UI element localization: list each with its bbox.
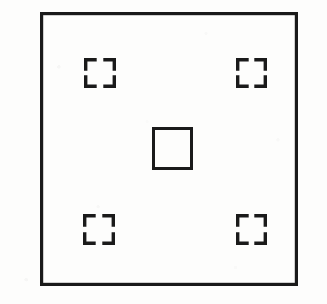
bracket-corner-top-left bbox=[238, 216, 249, 227]
bracket-top-left bbox=[86, 60, 115, 87]
bracket-corner-bottom-left bbox=[238, 75, 249, 86]
bracket-corner-bottom-left bbox=[85, 232, 96, 243]
bracket-corner-top-right bbox=[254, 216, 265, 227]
bracket-corner-top-right bbox=[254, 60, 265, 71]
bracket-corner-top-left bbox=[86, 60, 97, 71]
bracket-corner-bottom-right bbox=[102, 232, 113, 243]
bracket-corner-bottom-left bbox=[238, 232, 249, 243]
bracket-top-right bbox=[238, 60, 266, 87]
bracket-corner-top-right bbox=[102, 216, 113, 227]
line-drawing bbox=[0, 0, 327, 304]
bracket-corner-bottom-right bbox=[254, 232, 265, 243]
bracket-bottom-left bbox=[85, 216, 114, 244]
bracket-corner-bottom-right bbox=[254, 75, 265, 86]
bracket-corner-bottom-right bbox=[103, 75, 114, 86]
figure-canvas bbox=[0, 0, 327, 304]
bracket-corner-top-right bbox=[103, 60, 114, 71]
bracket-corner-top-left bbox=[238, 60, 249, 71]
bracket-bottom-right bbox=[238, 216, 266, 244]
bracket-corner-top-left bbox=[85, 216, 96, 227]
bracket-corner-bottom-left bbox=[86, 75, 97, 86]
center-square bbox=[154, 129, 192, 169]
